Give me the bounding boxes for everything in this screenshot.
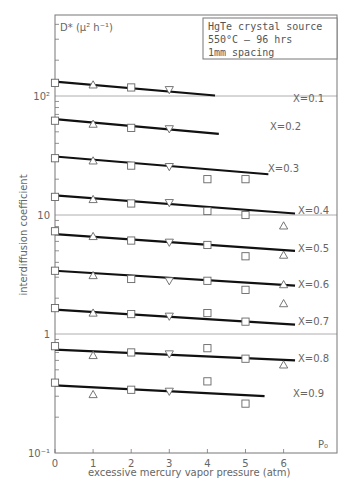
square-marker-icon — [51, 228, 58, 235]
square-marker-icon — [128, 275, 135, 282]
square-marker-icon — [51, 79, 58, 86]
square-marker-icon — [204, 207, 211, 214]
x-axis: 0123456 — [52, 449, 287, 469]
y-tick-label: 10² — [33, 91, 50, 102]
series-label: X=0.9 — [293, 388, 324, 399]
series-group — [51, 79, 295, 407]
fit-line — [55, 385, 265, 396]
y-axis: 10⁻¹11010² — [28, 24, 59, 459]
square-marker-icon — [204, 309, 211, 316]
series-X-0.3 — [51, 155, 268, 183]
square-marker-icon — [204, 277, 211, 284]
square-marker-icon — [204, 378, 211, 385]
square-marker-icon — [51, 155, 58, 162]
fit-line — [55, 119, 219, 134]
square-marker-icon — [51, 267, 58, 274]
square-marker-icon — [51, 379, 58, 386]
series-label: X=0.8 — [298, 353, 329, 364]
square-marker-icon — [128, 349, 135, 356]
square-marker-icon — [242, 400, 249, 407]
square-marker-icon — [242, 318, 249, 325]
square-marker-icon — [242, 355, 249, 362]
y-tick-label: 10 — [37, 210, 50, 221]
square-marker-icon — [51, 117, 58, 124]
y-tick-label: 1 — [44, 329, 50, 340]
square-marker-icon — [242, 176, 249, 183]
square-marker-icon — [204, 241, 211, 248]
legend-line-3: 1mm spacing — [208, 47, 274, 58]
fit-line — [55, 157, 268, 175]
square-marker-icon — [204, 176, 211, 183]
triangle-up-marker-icon — [280, 361, 288, 368]
triangle-up-marker-icon — [280, 222, 288, 229]
square-marker-icon — [242, 211, 249, 218]
series-label: X=0.6 — [298, 279, 329, 290]
series-label: X=0.7 — [298, 316, 329, 327]
square-marker-icon — [128, 200, 135, 207]
triangle-down-marker-icon — [165, 278, 173, 285]
square-marker-icon — [51, 193, 58, 200]
series-label: X=0.1 — [293, 93, 324, 104]
series-X-0.4 — [51, 193, 295, 229]
triangle-up-marker-icon — [89, 390, 97, 397]
y-axis-title: interdiffusion coefficient — [18, 174, 29, 295]
square-marker-icon — [242, 253, 249, 260]
series-X-0.7 — [51, 300, 295, 326]
series-X-0.8 — [51, 343, 295, 368]
interdiffusion-chart: 10⁻¹11010² 0123456 X=0.1X=0.2X=0.3X=0.4X… — [0, 0, 356, 489]
square-marker-icon — [51, 343, 58, 350]
legend-line-2: 550°C – 96 hrs — [208, 34, 292, 45]
series-label: X=0.3 — [268, 163, 299, 174]
square-marker-icon — [51, 305, 58, 312]
x-tick-label: 0 — [52, 458, 58, 469]
x-axis-title: excessive mercury vapor pressure (atm) — [88, 467, 291, 478]
series-X-0.6 — [51, 267, 295, 293]
square-marker-icon — [128, 386, 135, 393]
square-marker-icon — [128, 124, 135, 131]
triangle-up-marker-icon — [280, 300, 288, 307]
fit-line — [55, 195, 295, 213]
triangle-up-marker-icon — [280, 251, 288, 258]
series-label: X=0.2 — [270, 121, 301, 132]
legend-line-1: HgTe crystal source — [208, 21, 322, 32]
square-marker-icon — [128, 237, 135, 244]
series-X-0.5 — [51, 228, 295, 260]
series-X-0.1 — [51, 79, 215, 95]
x-corner-label: P₀ — [318, 439, 328, 450]
series-label: X=0.5 — [298, 243, 329, 254]
legend-box: HgTe crystal source 550°C – 96 hrs 1mm s… — [203, 18, 337, 59]
series-label: X=0.4 — [298, 205, 329, 216]
series-X-0.9 — [51, 378, 264, 407]
series-labels: X=0.1X=0.2X=0.3X=0.4X=0.5X=0.6X=0.7X=0.8… — [268, 93, 329, 399]
series-X-0.2 — [51, 117, 218, 134]
square-marker-icon — [128, 162, 135, 169]
y-tick-label: 10⁻¹ — [28, 448, 50, 459]
square-marker-icon — [128, 84, 135, 91]
square-marker-icon — [128, 310, 135, 317]
y-unit-label: D* (μ² h⁻¹) — [60, 22, 113, 33]
square-marker-icon — [204, 345, 211, 352]
square-marker-icon — [242, 286, 249, 293]
